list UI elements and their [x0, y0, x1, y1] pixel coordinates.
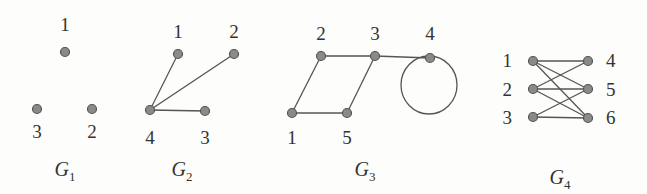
g2-node-label-3: 3: [200, 127, 210, 148]
g3-loop-4: [401, 56, 457, 114]
g2-edge-4-1: [150, 54, 178, 110]
g4-node-label-4: 4: [606, 50, 616, 71]
g3-node-1: [288, 109, 297, 118]
g3-node-label-2: 2: [316, 23, 326, 44]
g3-node-5: [343, 109, 352, 118]
g3-node-label-5: 5: [342, 127, 352, 148]
g2-node-label-4: 4: [145, 127, 155, 148]
g3-node-label-1: 1: [287, 127, 297, 148]
g3-node-2: [317, 52, 326, 61]
g1-node-2: [88, 105, 97, 114]
g3-node-label-3: 3: [370, 23, 380, 44]
g2-node-label-1: 1: [173, 21, 183, 42]
g2-node-label-2: 2: [229, 21, 239, 42]
g1-node-label-2: 2: [87, 121, 97, 142]
g2-edge-4-3: [150, 110, 205, 111]
g4-node-6: [584, 114, 593, 123]
captions-layer: G1G2G3G4: [55, 158, 571, 192]
g4-node-label-1: 1: [503, 50, 513, 71]
g2-edge-4-2: [150, 54, 234, 110]
g4-node-label-6: 6: [606, 107, 616, 128]
g4-node-2: [529, 85, 538, 94]
g4-node-label-3: 3: [503, 107, 513, 128]
g3-caption: G3: [355, 158, 376, 184]
g4-node-5: [584, 85, 593, 94]
g4-caption: G4: [550, 166, 571, 192]
edges-layer: [150, 54, 588, 118]
g3-edge-5-3: [347, 56, 375, 113]
g4-node-4: [584, 57, 593, 66]
graph-figure: 132124323415123456 G1G2G3G4: [0, 0, 647, 194]
g2-node-3: [201, 107, 210, 116]
g3-node-4: [426, 54, 435, 63]
g1-node-label-3: 3: [32, 121, 42, 142]
g4-node-label-2: 2: [503, 79, 513, 100]
g2-node-1: [174, 50, 183, 59]
labels-layer: 132124323415123456: [32, 14, 616, 148]
g2-node-4: [146, 106, 155, 115]
g3-node-3: [371, 52, 380, 61]
g4-node-label-5: 5: [606, 79, 616, 100]
g2-node-2: [230, 50, 239, 59]
g1-node-1: [61, 48, 70, 57]
g1-node-3: [33, 105, 42, 114]
g4-node-1: [529, 57, 538, 66]
g2-caption: G2: [172, 158, 193, 184]
g3-node-label-4: 4: [425, 23, 435, 44]
g4-node-3: [529, 113, 538, 122]
g4-edge-3-6: [533, 117, 588, 118]
g1-caption: G1: [55, 158, 76, 184]
g3-edge-2-1: [292, 56, 321, 113]
g1-node-label-1: 1: [60, 14, 70, 35]
